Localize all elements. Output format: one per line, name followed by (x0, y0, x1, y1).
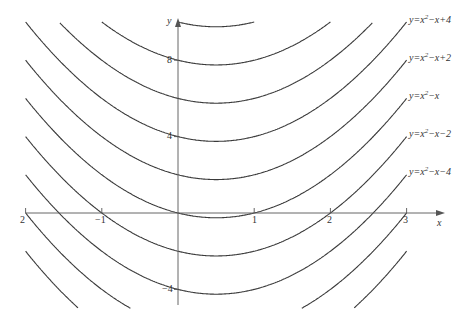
y-tick-label-8: 8 (167, 54, 172, 65)
parabola-curve (26, 251, 78, 308)
parabola-curve (26, 98, 407, 217)
x-axis-arrow-icon (436, 210, 445, 216)
x-tick-label-neg2: 2 (20, 214, 25, 225)
parabola-curve (354, 251, 406, 308)
parabola-curve (26, 137, 407, 256)
x-tick-label-1: 1 (252, 214, 257, 225)
y-tick-label-neg4: −4 (162, 283, 173, 294)
parabola-curve (178, 22, 254, 27)
curve-label-cneg2: y=x2−x−2 (409, 128, 451, 139)
x-tick-label-3: 3 (403, 214, 408, 225)
curve-label-c0: y=x2−x (409, 90, 439, 101)
y-tick-label-4: 4 (167, 130, 172, 141)
parabola-curve (102, 22, 331, 65)
y-axis-label: y (167, 15, 171, 26)
parabola-curve (26, 22, 407, 141)
curve-label-c2: y=x2−x+2 (409, 52, 451, 63)
x-axis-label: x (437, 217, 441, 228)
parabola-curves (26, 22, 407, 308)
x-tick-label-neg1: −1 (95, 214, 106, 225)
x-tick-label-2: 2 (327, 214, 332, 225)
curve-label-c4: y=x2−x+4 (409, 14, 451, 25)
chart-canvas (0, 0, 473, 326)
curve-label-cneg4: y=x2−x−4 (409, 166, 451, 177)
axes (26, 18, 445, 305)
parabola-curve (26, 60, 407, 179)
parabola-curve (60, 23, 372, 103)
parabola-curve (26, 175, 407, 294)
